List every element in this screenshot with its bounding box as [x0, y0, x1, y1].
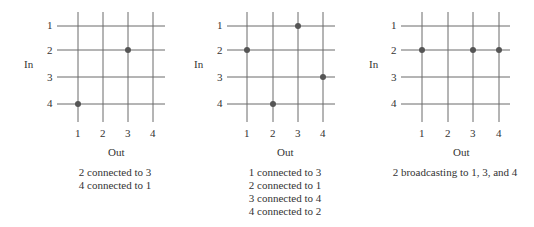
caption-line: 3 connected to 4 [230, 192, 340, 205]
row-label-4: 4 [391, 97, 397, 109]
grid-lines [57, 12, 165, 122]
caption-line: 2 connected to 3 [60, 166, 170, 179]
col-label-2: 2 [270, 127, 276, 139]
connection-dot-in4-out2 [270, 101, 276, 107]
row-label-3: 3 [217, 71, 223, 83]
row-label-2: 2 [391, 44, 397, 56]
row-label-3: 3 [391, 71, 397, 83]
crossbar-grid-1: In 1 2 3 4 1 2 3 4 Out [0, 0, 180, 227]
col-label-3: 3 [125, 127, 131, 139]
col-label-4: 4 [150, 127, 156, 139]
row-label-2: 2 [47, 44, 53, 56]
connection-dot-in2-out1 [244, 47, 250, 53]
in-axis-label: In [194, 58, 204, 70]
connection-dot-in3-out4 [320, 74, 326, 80]
col-label-1: 1 [75, 127, 81, 139]
caption-line: 4 connected to 1 [60, 179, 170, 192]
col-label-4: 4 [320, 127, 326, 139]
row-label-2: 2 [217, 44, 223, 56]
caption-2: 1 connected to 3 2 connected to 1 3 conn… [230, 166, 340, 218]
caption-line: 2 broadcasting to 1, 3, and 4 [380, 166, 530, 179]
grid-lines [401, 12, 510, 122]
col-label-1: 1 [244, 127, 250, 139]
col-label-3: 3 [470, 127, 476, 139]
out-axis-label: Out [277, 146, 294, 158]
crossbar-panel-3: In 1 2 3 4 1 2 3 4 Out 2 broadcasting to… [345, 0, 534, 227]
caption-3: 2 broadcasting to 1, 3, and 4 [380, 166, 530, 179]
caption-line: 4 connected to 2 [230, 205, 340, 218]
caption-1: 2 connected to 3 4 connected to 1 [60, 166, 170, 192]
crossbar-panel-1: In 1 2 3 4 1 2 3 4 Out 2 connected to 3 … [0, 0, 180, 227]
crossbar-grid-3: In 1 2 3 4 1 2 3 4 Out [345, 0, 534, 227]
out-axis-label: Out [453, 146, 470, 158]
crossbar-panel-2: In 1 2 3 4 1 2 3 4 Out 1 connected to 3 … [170, 0, 350, 227]
caption-line: 1 connected to 3 [230, 166, 340, 179]
connection-dot-in2-out3 [125, 47, 131, 53]
row-label-4: 4 [217, 97, 223, 109]
connection-dot-in2-out4 [496, 47, 502, 53]
col-label-1: 1 [419, 127, 425, 139]
row-label-3: 3 [47, 71, 53, 83]
row-label-1: 1 [217, 19, 223, 31]
col-label-2: 2 [100, 127, 106, 139]
connection-dot-in2-out1 [419, 47, 425, 53]
row-label-4: 4 [47, 97, 53, 109]
row-label-1: 1 [47, 19, 53, 31]
connection-dot-in2-out3 [470, 47, 476, 53]
connection-dot-in4-out1 [75, 101, 81, 107]
out-axis-label: Out [108, 146, 125, 158]
grid-lines [227, 12, 335, 122]
row-label-1: 1 [391, 19, 397, 31]
col-label-2: 2 [445, 127, 451, 139]
connection-dot-in1-out3 [295, 23, 301, 29]
col-label-3: 3 [295, 127, 301, 139]
in-axis-label: In [369, 58, 379, 70]
in-axis-label: In [24, 58, 34, 70]
col-label-4: 4 [496, 127, 502, 139]
caption-line: 2 connected to 1 [230, 179, 340, 192]
